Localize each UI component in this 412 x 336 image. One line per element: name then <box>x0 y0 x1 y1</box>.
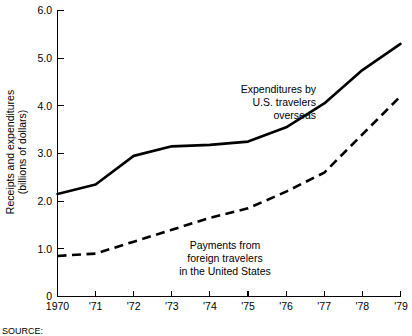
source-note: SOURCE: <box>2 326 43 336</box>
x-axis-tick-labels: 1970 '71 '72 '73 '74 '75 '76 '77 '78 '79 <box>46 300 408 312</box>
series-line-payments <box>58 96 401 256</box>
y-axis-title-line-2: (billions of dollars) <box>16 110 28 195</box>
x-tick-label: '71 <box>89 300 103 312</box>
chart-container: 0 1.0 2.0 3.0 4.0 5.0 6.0 1970 '71 '72 <box>0 0 412 336</box>
y-tick-label: 1.0 <box>37 243 52 255</box>
series-line-expenditures <box>58 44 401 194</box>
y-axis-title-line-1: Receipts and expenditures <box>4 90 16 214</box>
y-axis-title: Receipts and expenditures (billions of d… <box>4 90 28 214</box>
x-tick-label: '75 <box>241 300 255 312</box>
x-tick-label: '74 <box>203 300 217 312</box>
x-tick-label: '73 <box>165 300 179 312</box>
y-tick-label: 4.0 <box>37 100 52 112</box>
annotation-expenditures-line-3: overseas <box>273 109 316 121</box>
x-tick-label: 1970 <box>46 300 70 312</box>
y-tick-label: 5.0 <box>37 52 52 64</box>
annotation-expenditures: Expenditures by U.S. travelers overseas <box>241 83 317 121</box>
x-tick-label: '79 <box>394 300 408 312</box>
annotation-expenditures-line-1: Expenditures by <box>241 83 317 95</box>
y-tick-label: 2.0 <box>37 195 52 207</box>
y-axis-ticks <box>58 11 64 297</box>
annotation-payments: Payments from foreign travelers in the U… <box>179 239 271 277</box>
line-chart: 0 1.0 2.0 3.0 4.0 5.0 6.0 1970 '71 '72 <box>0 0 412 336</box>
x-axis-ticks <box>58 291 401 297</box>
annotation-payments-line-2: foreign travelers <box>187 252 262 264</box>
x-tick-label: '72 <box>127 300 141 312</box>
y-tick-label: 3.0 <box>37 147 52 159</box>
y-axis-tick-labels: 0 1.0 2.0 3.0 4.0 5.0 6.0 <box>37 4 52 302</box>
annotation-expenditures-line-2: U.S. travelers <box>252 96 316 108</box>
x-tick-label: '78 <box>355 300 369 312</box>
x-tick-label: '77 <box>317 300 331 312</box>
annotation-payments-line-1: Payments from <box>190 239 261 251</box>
y-tick-label: 6.0 <box>37 4 52 16</box>
annotation-payments-line-3: in the United States <box>179 265 271 277</box>
x-tick-label: '76 <box>279 300 293 312</box>
